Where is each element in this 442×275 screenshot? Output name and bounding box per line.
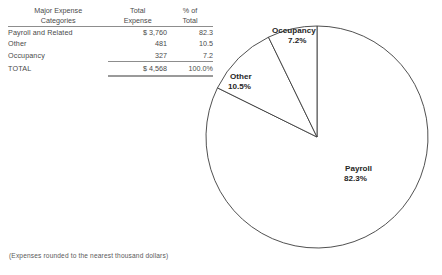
cell-category: Payroll and Related (8, 27, 108, 39)
cell-total-label: TOTAL (8, 62, 108, 76)
column-header-category: Major Expense Categories (8, 6, 108, 27)
column-header-category-line1: Major Expense (34, 6, 82, 15)
cell-total: 327 (108, 50, 167, 62)
column-header-percent-line1: % of (183, 6, 197, 15)
pie-slices (206, 26, 428, 248)
column-header-category-line2: Categories (41, 16, 76, 25)
table-header: Major Expense Categories Total Expense %… (8, 6, 213, 27)
pie-label-payroll-name: Payroll (345, 164, 372, 173)
table-total-row: TOTAL $ 4,568 100.0% (8, 62, 213, 76)
pie-label-other-name: Other (230, 72, 252, 81)
table-row: Payroll and Related $ 3,760 82.3 (8, 27, 213, 39)
column-header-percent-line2: Total (182, 16, 197, 25)
pie-label-occupancy-value: 7.2% (288, 36, 306, 45)
table-row: Other 481 10.5 (8, 38, 213, 49)
cell-total: $ 3,760 (108, 27, 167, 39)
pie-label-occupancy-name: Occupancy (272, 26, 316, 35)
pie-label-payroll-value: 82.3% (344, 174, 367, 183)
table-header-row: Major Expense Categories Total Expense %… (8, 6, 213, 27)
cell-total: 481 (108, 38, 167, 49)
column-header-total-expense-line1: Total (130, 6, 145, 15)
column-header-total-expense: Total Expense (108, 6, 167, 27)
expense-table-grid: Major Expense Categories Total Expense %… (8, 6, 213, 77)
table-row: Occupancy 327 7.2 (8, 50, 213, 62)
pie-label-other-value: 10.5% (228, 82, 251, 91)
cell-category: Other (8, 38, 108, 49)
cell-total-amount: $ 4,568 (108, 62, 167, 76)
table-body: Payroll and Related $ 3,760 82.3 Other 4… (8, 27, 213, 77)
pie-chart-svg: Occupancy 7.2% Other 10.5% Payroll 82.3% (198, 14, 438, 262)
footnote: (Expenses rounded to the nearest thousan… (9, 252, 168, 259)
expense-table: Major Expense Categories Total Expense %… (8, 6, 213, 77)
pie-chart: Occupancy 7.2% Other 10.5% Payroll 82.3% (198, 14, 438, 262)
column-header-total-expense-line2: Expense (124, 16, 152, 25)
cell-category: Occupancy (8, 50, 108, 62)
